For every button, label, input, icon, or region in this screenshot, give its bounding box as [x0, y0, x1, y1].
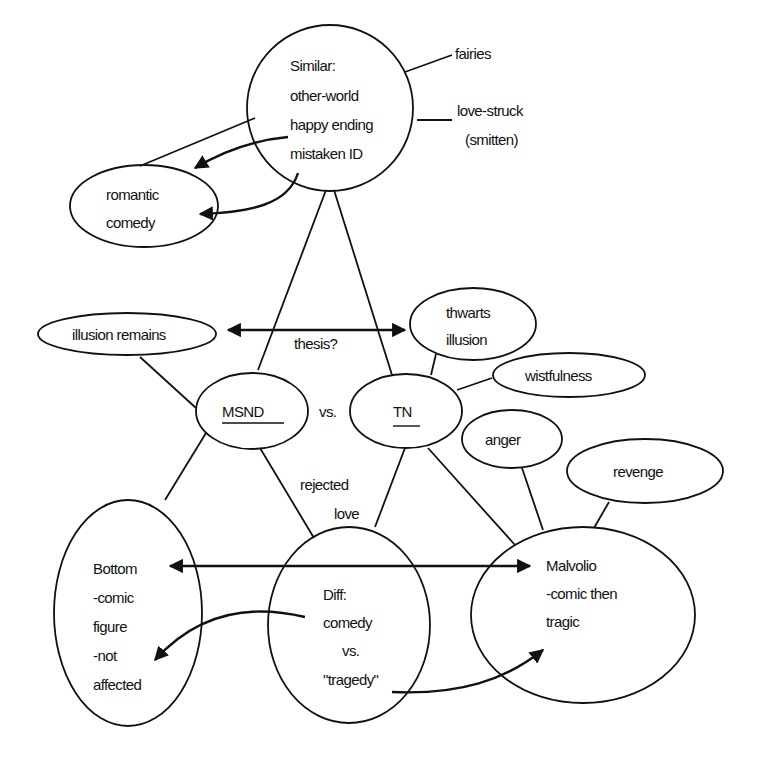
similar-line-2: other-world: [290, 87, 359, 104]
romantic-line-2: comedy: [106, 214, 156, 231]
revenge-label: revenge: [613, 463, 663, 480]
bottom-line-3: figure: [93, 618, 127, 635]
thwarts-line-1: thwarts: [446, 304, 490, 321]
node-similar: Similar: other-world happy ending mistak…: [247, 25, 413, 191]
node-romantic-comedy: romantic comedy: [70, 165, 218, 247]
edge-tn-diff: [375, 448, 405, 527]
node-thwarts-illusion: thwarts illusion: [410, 288, 536, 360]
similar-circle: [247, 25, 413, 191]
connector-lines: [140, 55, 609, 545]
bottom-line-1: Bottom: [93, 560, 137, 577]
edge-anger-malvolio: [522, 468, 543, 530]
malvolio-line-2: -comic then: [546, 585, 617, 602]
similar-line-3: happy ending: [290, 116, 373, 133]
edge-tn-thwarts: [431, 354, 436, 375]
diff-line-2: comedy: [323, 614, 373, 631]
diff-line-3: vs.: [342, 642, 359, 659]
malvolio-line-1: Malvolio: [546, 557, 596, 574]
arrow-diff-malvolio: [392, 650, 543, 692]
edge-msnd-bottom: [165, 433, 206, 500]
edge-similar-fairies: [405, 55, 452, 72]
diff-line-1: Diff:: [323, 586, 346, 603]
malvolio-ellipse: [471, 527, 695, 703]
edge-tn-malvolio: [428, 448, 515, 545]
node-diff: Diff: comedy vs. "tragedy": [268, 527, 430, 723]
wistfulness-label: wistfulness: [524, 367, 592, 384]
anger-label: anger: [485, 431, 521, 448]
edge-similar-tn: [334, 190, 392, 375]
edge-msnd-illusion: [140, 357, 196, 408]
vs-label: vs.: [319, 403, 336, 420]
arrow-diff-bottom: [155, 612, 305, 660]
thesis-label: thesis?: [294, 335, 338, 352]
edge-similar-romantic: [140, 118, 255, 166]
fairies-label: fairies: [455, 45, 491, 62]
tn-label: TN: [393, 403, 412, 420]
bottom-line-5: affected: [93, 676, 142, 693]
node-anger: anger: [462, 410, 562, 468]
node-malvolio: Malvolio -comic then tragic: [471, 527, 695, 703]
node-bottom: Bottom -comic figure -not affected: [54, 500, 202, 726]
diff-line-4: "tragedy": [323, 671, 379, 688]
romantic-line-1: romantic: [106, 186, 160, 203]
similar-line-4: mistaken ID: [290, 145, 363, 162]
node-msnd: MSND: [196, 373, 308, 449]
edge-revenge-malvolio: [594, 502, 609, 528]
malvolio-line-3: tragic: [546, 613, 580, 630]
msnd-label: MSND: [222, 403, 265, 420]
edge-tn-wistfulness: [457, 378, 492, 390]
love-label: love: [334, 505, 359, 522]
bottom-line-4: -not: [93, 647, 118, 664]
edge-msnd-diff: [260, 448, 314, 538]
lovestruck-line-1: love-struck: [457, 102, 524, 119]
bottom-line-2: -comic: [93, 589, 135, 606]
lovestruck-line-2: (smitten): [465, 131, 519, 148]
rejected-label: rejected: [300, 476, 349, 493]
concept-map: Similar: other-world happy ending mistak…: [0, 0, 761, 765]
similar-line-1: Similar:: [290, 57, 335, 74]
thwarts-ellipse: [410, 288, 536, 360]
arrow-similar-romantic-1: [195, 137, 288, 168]
node-tn: TN: [350, 374, 462, 448]
thwarts-line-2: illusion: [446, 331, 487, 348]
node-illusion-remains: illusion remains: [38, 313, 216, 355]
illusion-remains-label: illusion remains: [72, 326, 166, 343]
node-revenge: revenge: [567, 439, 723, 503]
node-wistfulness: wistfulness: [493, 353, 645, 397]
romantic-ellipse: [70, 165, 218, 247]
